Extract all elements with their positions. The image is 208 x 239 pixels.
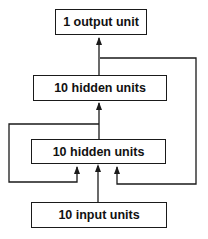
- node-input: 10 input units: [31, 202, 167, 228]
- node-label: 1 output unit: [63, 15, 139, 29]
- arrowhead-icon: [74, 166, 80, 174]
- node-label: 10 hidden units: [53, 145, 145, 159]
- arrowhead-icon: [96, 102, 102, 110]
- arrowhead-icon: [114, 166, 120, 174]
- arrowhead-icon: [95, 164, 101, 172]
- node-hidden-2: 10 hidden units: [33, 75, 167, 101]
- arrowhead-icon: [96, 37, 102, 45]
- node-label: 10 hidden units: [54, 81, 146, 95]
- node-label: 10 input units: [58, 208, 139, 222]
- node-hidden-1: 10 hidden units: [31, 139, 166, 164]
- node-output: 1 output unit: [55, 9, 147, 35]
